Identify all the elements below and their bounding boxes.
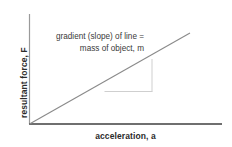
physics-graph-figure: gradient (slope) of line = mass of objec… [0, 0, 232, 147]
gradient-annotation: gradient (slope) of line = mass of objec… [36, 31, 144, 55]
y-axis-label: resultant force, F [19, 8, 29, 118]
gradient-annotation-line-2: mass of object, m [36, 43, 144, 55]
graph-canvas [0, 0, 232, 147]
gradient-annotation-line-1: gradient (slope) of line = [36, 31, 144, 43]
x-axis-label: acceleration, a [29, 131, 222, 141]
